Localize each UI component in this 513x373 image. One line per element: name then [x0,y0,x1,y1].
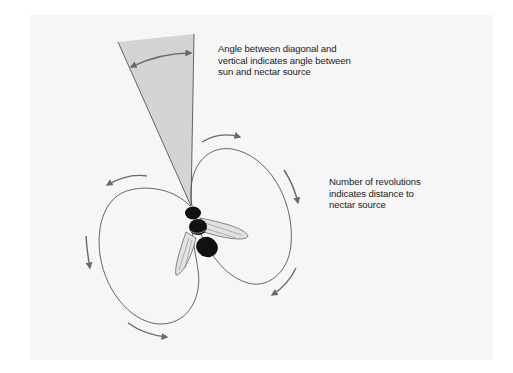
arrow-left [86,236,90,268]
arrow-right [284,170,298,203]
bee [176,207,248,276]
revolutions-annotation-line-3: nectar source [329,199,421,211]
arrow-bottom-left [128,323,167,337]
angle-annotation-line-2: vertical indicates angle between [218,55,351,67]
bee-abdomen [193,233,221,260]
bee-right-wing [200,218,248,239]
bee-thorax [189,219,207,235]
revolutions-annotation: Number of revolutions indicates distance… [329,176,421,211]
angle-annotation-line-1: Angle between diagonal and [218,43,351,55]
revolutions-annotation-line-1: Number of revolutions [329,176,421,188]
bee-left-wing [176,232,196,275]
bee-head [185,207,201,220]
revolutions-annotation-line-2: indicates distance to [329,188,421,200]
arrow-bottom-right [272,268,296,295]
angle-annotation-line-3: sun and nectar source [218,66,351,78]
right-loop [191,149,292,285]
angle-annotation: Angle between diagonal and vertical indi… [218,43,351,78]
arrow-top-left [107,175,147,185]
arrow-top-right [202,135,240,142]
angle-wedge [118,34,194,206]
